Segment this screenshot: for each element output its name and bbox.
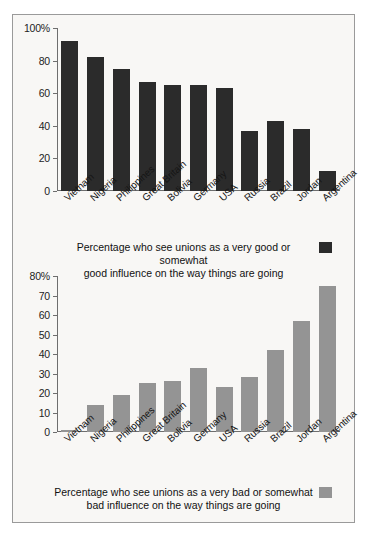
y-tick-label: 10 bbox=[13, 407, 50, 419]
y-tick bbox=[53, 374, 57, 375]
legend-good-line1: Percentage who see unions as a very good… bbox=[53, 241, 315, 267]
y-tick-label: 20 bbox=[13, 152, 50, 164]
y-tick-label: 100% bbox=[13, 22, 50, 34]
bar bbox=[113, 69, 130, 191]
y-tick-label: 60 bbox=[13, 309, 50, 321]
bar bbox=[87, 57, 104, 191]
legend-good: Percentage who see unions as a very good… bbox=[13, 241, 354, 280]
bar bbox=[319, 286, 336, 432]
bar bbox=[267, 350, 284, 432]
y-tick-label: 50 bbox=[13, 329, 50, 341]
y-tick bbox=[53, 158, 57, 159]
y-tick bbox=[53, 276, 57, 277]
y-tick bbox=[53, 61, 57, 62]
y-axis-bad bbox=[57, 276, 58, 432]
plot-area-good bbox=[57, 28, 340, 191]
y-tick-label: 60 bbox=[13, 87, 50, 99]
bar bbox=[293, 321, 310, 432]
y-tick-label: 40 bbox=[13, 120, 50, 132]
y-tick bbox=[53, 335, 57, 336]
y-tick-label: 80 bbox=[13, 55, 50, 67]
y-tick bbox=[53, 354, 57, 355]
bar bbox=[61, 41, 78, 191]
y-tick bbox=[53, 191, 57, 192]
y-tick-label: 80% bbox=[13, 270, 50, 282]
legend-bad-line2: bad influence on the way things are goin… bbox=[87, 499, 281, 512]
y-tick-label: 0 bbox=[13, 426, 50, 438]
legend-bad: Percentage who see unions as a very bad … bbox=[13, 486, 354, 512]
y-tick-label: 20 bbox=[13, 387, 50, 399]
y-axis-good bbox=[57, 28, 58, 191]
y-tick bbox=[53, 315, 57, 316]
y-tick bbox=[53, 126, 57, 127]
y-tick-label: 30 bbox=[13, 368, 50, 380]
legend-swatch-bad bbox=[319, 487, 332, 498]
y-tick-label: 0 bbox=[13, 185, 50, 197]
plot-area-bad bbox=[57, 276, 340, 432]
y-tick-label: 70 bbox=[13, 290, 50, 302]
y-tick-label: 40 bbox=[13, 348, 50, 360]
figure-frame: VietnamNigeriaPhilippinesGreat BritainBo… bbox=[12, 14, 355, 523]
legend-swatch-good bbox=[319, 242, 332, 253]
bar bbox=[190, 85, 207, 191]
y-tick bbox=[53, 393, 57, 394]
y-tick bbox=[53, 432, 57, 433]
y-tick bbox=[53, 28, 57, 29]
y-tick bbox=[53, 413, 57, 414]
legend-bad-line1: Percentage who see unions as a very bad … bbox=[54, 486, 313, 499]
y-tick bbox=[53, 93, 57, 94]
y-tick bbox=[53, 296, 57, 297]
